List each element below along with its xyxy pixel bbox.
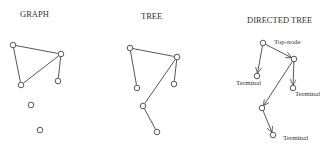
node-circle	[134, 85, 140, 91]
edge	[130, 51, 136, 85]
edge	[14, 48, 21, 82]
node-circle	[171, 81, 177, 87]
edge	[145, 59, 176, 103]
directed-edge	[293, 62, 294, 85]
edge	[16, 46, 58, 54]
directed-edge	[265, 44, 291, 57]
node-circle	[140, 103, 146, 109]
directed-edge	[258, 46, 263, 73]
directed-tree-title: DIRECTED TREE	[247, 15, 312, 25]
node-circle	[270, 132, 276, 138]
tree-title: TREE	[141, 11, 162, 21]
terminal-label: Terminal	[295, 90, 320, 98]
top-node-label: Top-node	[274, 38, 301, 46]
terminal-label: Terminal	[283, 134, 308, 142]
node-circle	[260, 40, 266, 46]
node-circle	[259, 105, 265, 111]
node-circle	[127, 45, 133, 51]
edge	[174, 60, 176, 81]
node-circle	[174, 54, 180, 60]
directed-edge	[263, 111, 272, 132]
node-circle	[58, 51, 64, 57]
node-circle	[28, 102, 34, 108]
edge	[144, 108, 155, 129]
node-circle	[37, 127, 43, 133]
node-circle	[55, 78, 61, 84]
graph-panel: GRAPH	[10, 9, 64, 133]
directed-tree-panel: DIRECTED TREETop-nodeTerminalTerminalTer…	[236, 15, 320, 142]
edge	[58, 57, 60, 78]
directed-edge	[264, 61, 293, 105]
node-circle	[18, 82, 24, 88]
graph-title: GRAPH	[20, 9, 49, 19]
node-circle	[291, 56, 297, 62]
terminal-label: Terminal	[236, 79, 261, 87]
edge	[24, 56, 59, 83]
graph-tree-diagram: GRAPHTREEDIRECTED TREETop-nodeTerminalTe…	[0, 0, 333, 149]
node-circle	[10, 42, 16, 48]
tree-panel: TREE	[127, 11, 180, 135]
node-circle	[254, 73, 260, 79]
node-circle	[154, 129, 160, 135]
edge	[133, 49, 174, 57]
